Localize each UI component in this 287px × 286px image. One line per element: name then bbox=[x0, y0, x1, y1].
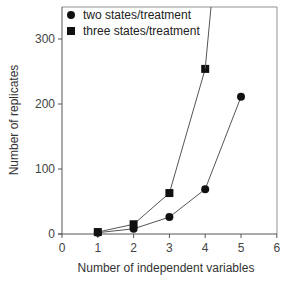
x-ticks: 0123456 bbox=[59, 234, 281, 255]
legend-label-two-states: two states/treatment bbox=[83, 8, 192, 22]
x-tick-label: 5 bbox=[238, 241, 245, 255]
series-line bbox=[98, 97, 241, 233]
x-tick-label: 4 bbox=[202, 241, 209, 255]
legend-square-icon bbox=[67, 27, 75, 35]
legend: two states/treatment three states/treatm… bbox=[67, 8, 200, 38]
x-tick-label: 6 bbox=[273, 241, 280, 255]
legend-label-three-states: three states/treatment bbox=[83, 24, 200, 38]
circle-marker bbox=[237, 93, 245, 101]
series-line bbox=[98, 69, 205, 232]
x-tick-label: 2 bbox=[130, 241, 137, 255]
circle-marker bbox=[165, 213, 173, 221]
x-tick-label: 1 bbox=[94, 241, 101, 255]
y-tick-label: 0 bbox=[48, 227, 55, 241]
y-ticks: 0100200300 bbox=[35, 32, 62, 241]
square-marker bbox=[130, 220, 138, 228]
y-tick-label: 100 bbox=[35, 162, 55, 176]
x-tick-label: 0 bbox=[59, 241, 66, 255]
circle-marker bbox=[201, 185, 209, 193]
square-marker bbox=[165, 189, 173, 197]
y-axis-label: Number of replicates bbox=[7, 65, 21, 176]
x-axis-label: Number of independent variables bbox=[78, 261, 255, 275]
square-marker bbox=[94, 228, 102, 236]
x-tick-label: 3 bbox=[166, 241, 173, 255]
three-states-continuation bbox=[205, 7, 211, 69]
chart: 0100200300 0123456 two states/treatment … bbox=[0, 0, 287, 286]
legend-circle-icon bbox=[67, 11, 75, 19]
y-tick-label: 200 bbox=[35, 97, 55, 111]
series-group bbox=[94, 65, 245, 237]
y-tick-label: 300 bbox=[35, 32, 55, 46]
